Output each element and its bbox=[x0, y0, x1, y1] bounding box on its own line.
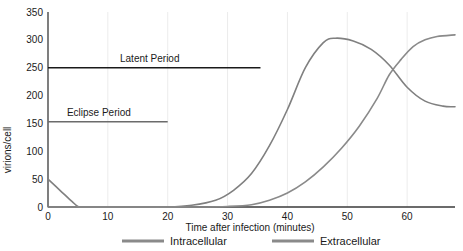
y-tick-label-50: 50 bbox=[32, 174, 44, 185]
y-tick-label-150: 150 bbox=[26, 118, 43, 129]
chart-canvas: 050100150200250300350 0102030405060 Late… bbox=[0, 0, 463, 251]
x-tick-label-20: 20 bbox=[162, 211, 174, 222]
x-axis-tick-labels: 0102030405060 bbox=[45, 211, 413, 222]
y-tick-label-300: 300 bbox=[26, 34, 43, 45]
y-tick-label-350: 350 bbox=[26, 7, 43, 18]
x-axis-title: Time after infection (minutes) bbox=[185, 222, 314, 233]
y-axis-title: virions/cell bbox=[2, 127, 13, 174]
y-tick-label-100: 100 bbox=[26, 146, 43, 157]
x-tick-label-30: 30 bbox=[222, 211, 234, 222]
y-tick-label-200: 200 bbox=[26, 90, 43, 101]
y-tick-label-250: 250 bbox=[26, 62, 43, 73]
annotation-label-eclipse-period: Eclipse Period bbox=[67, 107, 131, 118]
y-axis-tick-labels: 050100150200250300350 bbox=[26, 7, 43, 213]
chart-legend: IntracellularExtracellular bbox=[122, 235, 381, 247]
legend-label-intracellular: Intracellular bbox=[170, 235, 227, 247]
x-tick-label-0: 0 bbox=[45, 211, 51, 222]
virus-growth-curve-chart: 050100150200250300350 0102030405060 Late… bbox=[0, 0, 463, 251]
series-line-intracellular bbox=[48, 38, 455, 207]
y-tick-label-0: 0 bbox=[37, 202, 43, 213]
x-tick-label-10: 10 bbox=[102, 211, 114, 222]
annotation-label-latent-period: Latent Period bbox=[120, 53, 180, 64]
series-line-extracellular bbox=[48, 35, 455, 207]
legend-label-extracellular: Extracellular bbox=[320, 235, 381, 247]
x-tick-label-40: 40 bbox=[282, 211, 294, 222]
period-annotations: Latent PeriodEclipse Period bbox=[48, 53, 260, 122]
x-tick-label-60: 60 bbox=[402, 211, 414, 222]
gridlines bbox=[108, 12, 407, 207]
x-tick-label-50: 50 bbox=[342, 211, 354, 222]
